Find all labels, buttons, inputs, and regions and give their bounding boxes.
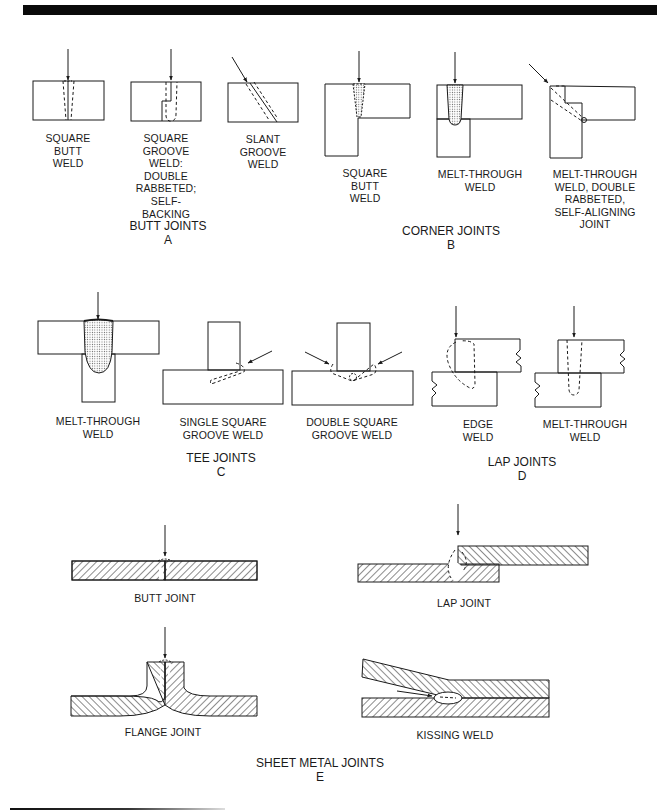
tee-single-groove-label: SINGLE SQUARE GROOVE WELD (173, 416, 273, 441)
corner-melt-through-drawing (437, 52, 522, 157)
butt-square-weld-label: SQUARE BUTT WELD (28, 132, 108, 170)
sheet-kissing-weld-label: KISSING WELD (405, 729, 505, 742)
corner-square-butt-label: SQUARE BUTT WELD (325, 167, 405, 205)
corner-rabbeted-label: MELT-THROUGH WELD, DOUBLE RABBETED, SELF… (540, 168, 650, 231)
tee-double-groove-label: DOUBLE SQUARE GROOVE WELD (297, 416, 407, 441)
sheet-kissing-weld-drawing (362, 659, 549, 717)
lap-melt-through-drawing (535, 306, 625, 407)
tee-melt-through-drawing (38, 292, 159, 402)
footer-rule (10, 808, 225, 810)
sheet-flange-joint-drawing (71, 627, 257, 716)
corner-square-butt-drawing (325, 51, 410, 156)
section-title-lap-joints: LAP JOINTS D (482, 455, 562, 483)
sheet-flange-joint-label: FLANGE JOINT (113, 726, 213, 739)
butt-square-weld-drawing (33, 49, 104, 120)
sheet-butt-joint-label: BUTT JOINT (115, 592, 215, 605)
sheet-butt-joint-drawing (72, 525, 257, 580)
corner-melt-through-label: MELT-THROUGH WELD (430, 168, 530, 193)
sheet-lap-joint-label: LAP JOINT (424, 597, 504, 610)
sheet-lap-joint-drawing (358, 504, 588, 582)
tee-melt-through-label: MELT-THROUGH WELD (48, 415, 148, 440)
butt-groove-weld-drawing (131, 49, 201, 121)
section-title-sheet-metal-joints: SHEET METAL JOINTS E (250, 756, 390, 784)
lap-edge-weld-drawing (432, 306, 521, 406)
section-title-corner-joints: CORNER JOINTS B (396, 224, 506, 252)
butt-groove-weld-label: SQUARE GROOVE WELD: DOUBLE RABBETED; SEL… (126, 132, 206, 220)
corner-rabbeted-drawing (529, 64, 635, 158)
section-title-tee-joints: TEE JOINTS C (181, 451, 261, 479)
lap-melt-through-label: MELT-THROUGH WELD (535, 418, 635, 443)
lap-edge-weld-label: EDGE WELD (443, 418, 513, 443)
butt-slant-weld-label: SLANT GROOVE WELD (223, 133, 303, 171)
weld-joint-diagram (0, 0, 666, 811)
tee-single-groove-drawing (163, 322, 283, 404)
section-title-butt-joints: BUTT JOINTS A (118, 219, 218, 247)
butt-slant-weld-drawing (228, 57, 298, 122)
tee-double-groove-drawing (292, 323, 413, 405)
